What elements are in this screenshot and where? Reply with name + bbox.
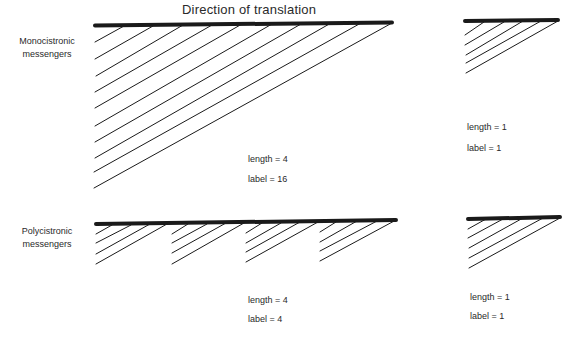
polycistronic-short-messenger <box>468 217 560 268</box>
mrna-bar <box>95 23 392 26</box>
poly-short-label: label = 1 <box>470 311 504 321</box>
cistron-2-chains <box>172 223 244 264</box>
polycistronic-long-messenger <box>96 220 396 264</box>
nascent-chains <box>468 218 560 268</box>
mrna-bar <box>468 217 560 219</box>
poly-long-length: length = 4 <box>248 295 288 305</box>
cistron-3-chains <box>246 222 318 262</box>
nascent-chains <box>465 21 558 73</box>
mono-short-length: length = 1 <box>467 122 507 132</box>
mono-long-length: length = 4 <box>248 154 288 164</box>
mono-short-label: label = 1 <box>467 143 501 153</box>
cistron-4-chains <box>320 220 396 261</box>
mrna-bar <box>465 20 558 21</box>
cistron-1-chains <box>96 224 167 264</box>
poly-short-length: length = 1 <box>470 292 510 302</box>
mono-long-label: label = 16 <box>248 174 287 184</box>
monocistronic-long-messenger <box>94 23 392 189</box>
poly-long-label: label = 4 <box>248 314 282 324</box>
nascent-chains <box>94 23 392 188</box>
monocistronic-short-messenger <box>465 20 558 73</box>
mrna-bar <box>96 220 396 224</box>
